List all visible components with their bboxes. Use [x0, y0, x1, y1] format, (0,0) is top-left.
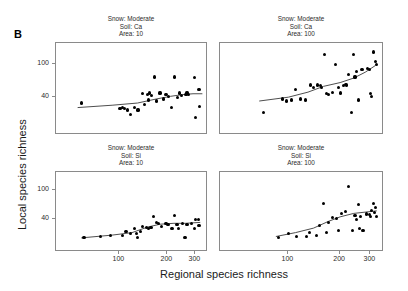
data-point: [325, 231, 328, 234]
data-point: [353, 214, 356, 217]
strip-line-1: Soil: Si: [55, 152, 207, 160]
data-point: [141, 225, 144, 228]
data-point: [176, 96, 179, 99]
data-point: [334, 63, 337, 66]
panel-strip-si-10: Snow: ModerateSoil: SiArea: 10: [55, 144, 207, 167]
strip-line-1: Soil: Ca: [219, 23, 383, 31]
data-point: [357, 98, 360, 101]
y-tick-label: 100: [23, 59, 49, 66]
strip-line-2: Area: 100: [219, 159, 383, 167]
y-tickmark: [52, 218, 55, 219]
data-point: [308, 231, 311, 234]
panel-strip-ca-10: Snow: ModerateSoil: CaArea: 10: [55, 15, 207, 38]
data-point: [197, 224, 200, 227]
smoother-curve-ca-10: [56, 43, 207, 134]
x-tick-label: 100: [106, 255, 130, 262]
data-point: [185, 223, 188, 226]
strip-line-0: Snow: Moderate: [55, 15, 207, 23]
data-point: [153, 75, 156, 78]
data-point: [331, 91, 334, 94]
data-point: [143, 103, 146, 106]
x-tickmark: [118, 251, 119, 254]
data-point: [126, 108, 129, 111]
data-point: [160, 225, 163, 228]
data-point: [198, 105, 201, 108]
data-point: [370, 95, 373, 98]
x-tickmark: [339, 251, 340, 254]
y-tick-label: 100: [23, 185, 49, 192]
smoother-curve-si-100: [220, 172, 383, 251]
data-point: [170, 227, 173, 230]
strip-line-0: Snow: Moderate: [55, 144, 207, 152]
data-point: [180, 94, 183, 97]
data-point: [80, 101, 83, 104]
data-point: [193, 227, 196, 230]
data-point: [352, 53, 355, 56]
smoother-curve-si-10: [56, 172, 207, 251]
data-point: [331, 216, 334, 219]
data-point: [353, 75, 356, 78]
data-point: [99, 235, 102, 238]
data-point: [375, 215, 378, 218]
data-point: [147, 98, 150, 101]
data-point: [339, 91, 342, 94]
plot-frame-si-10: [55, 171, 207, 251]
data-point: [351, 229, 354, 232]
data-point: [345, 83, 348, 86]
data-point: [322, 202, 325, 205]
panel-strip-si-100: Snow: ModerateSoil: SiArea: 100: [219, 144, 383, 167]
data-point: [173, 75, 176, 78]
data-point: [136, 108, 139, 111]
strip-line-2: Area: 100: [219, 30, 383, 38]
plot-frame-ca-10: [55, 42, 207, 134]
data-point: [290, 98, 293, 101]
data-point: [149, 226, 152, 229]
y-tick-label: 40: [23, 92, 49, 99]
strip-line-2: Area: 10: [55, 30, 207, 38]
x-tickmark: [369, 251, 370, 254]
data-point: [335, 217, 338, 220]
data-point: [372, 50, 375, 53]
data-point: [315, 234, 318, 237]
data-point: [152, 215, 155, 218]
y-tickmark: [52, 189, 55, 190]
y-tickmark: [52, 63, 55, 64]
smoother-curve-ca-100: [220, 43, 383, 134]
data-point: [318, 224, 321, 227]
x-tick-label: 200: [327, 255, 351, 262]
x-tickmark: [166, 251, 167, 254]
data-point: [177, 227, 180, 230]
data-point: [133, 227, 136, 230]
y-tick-label: 40: [23, 214, 49, 221]
data-point: [281, 97, 284, 100]
x-axis-title: Regional species richness: [104, 268, 344, 280]
plot-frame-ca-100: [219, 42, 383, 134]
data-point: [181, 222, 184, 225]
panel-letter-label: B: [14, 28, 22, 40]
y-tickmark: [52, 96, 55, 97]
strip-line-2: Area: 10: [55, 159, 207, 167]
plot-frame-si-100: [219, 171, 383, 251]
data-point: [299, 97, 302, 100]
data-point: [372, 202, 375, 205]
data-point: [197, 88, 200, 91]
x-tickmark: [287, 251, 288, 254]
x-tick-label: 300: [182, 255, 206, 262]
x-tickmark: [194, 251, 195, 254]
x-tick-label: 200: [154, 255, 178, 262]
data-point: [197, 218, 200, 221]
strip-line-0: Snow: Moderate: [219, 144, 383, 152]
x-tick-label: 300: [357, 255, 381, 262]
data-point: [121, 234, 124, 237]
data-point: [175, 223, 178, 226]
data-point: [109, 234, 112, 237]
data-point: [294, 88, 297, 91]
data-point: [361, 229, 364, 232]
data-point: [124, 230, 127, 233]
panel-strip-ca-100: Snow: ModerateSoil: CaArea: 100: [219, 15, 383, 38]
data-point: [166, 223, 169, 226]
data-point: [170, 106, 173, 109]
x-tick-label: 100: [275, 255, 299, 262]
figure-panel-b: B Local species richness Regional specie…: [0, 0, 408, 291]
strip-line-0: Snow: Moderate: [219, 15, 383, 23]
